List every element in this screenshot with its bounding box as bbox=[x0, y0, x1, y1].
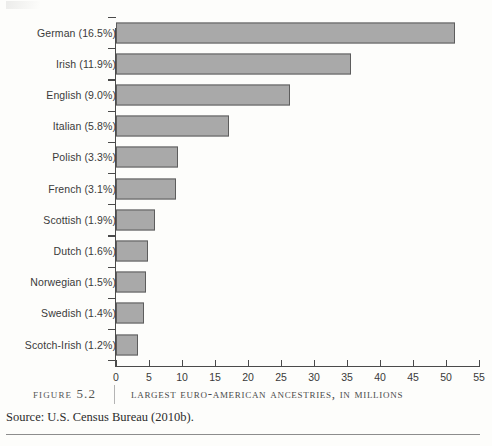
bar-row: Scotch-Irish (1.2%) bbox=[0, 329, 492, 360]
y-tick bbox=[108, 235, 116, 236]
bar bbox=[116, 303, 144, 324]
bar bbox=[116, 209, 155, 230]
bar bbox=[116, 53, 351, 74]
y-tick bbox=[108, 298, 116, 299]
x-tick bbox=[248, 360, 249, 367]
y-tick bbox=[108, 79, 116, 80]
y-tick bbox=[108, 267, 116, 268]
bar bbox=[116, 22, 455, 43]
x-tick bbox=[215, 360, 216, 367]
bar-row: Norwegian (1.5%) bbox=[0, 267, 492, 298]
bar-chart: German (16.5%)Irish (11.9%)English (9.0%… bbox=[0, 14, 492, 366]
figure-title: Largest Euro-American Ancestries, in Mil… bbox=[131, 386, 403, 402]
caption-divider bbox=[114, 385, 115, 404]
x-tick bbox=[380, 360, 381, 367]
figure-caption-block: Figure 5.2 Largest Euro-American Ancestr… bbox=[0, 382, 492, 406]
category-label: English (9.0%) bbox=[46, 89, 116, 101]
category-label: Irish (11.9%) bbox=[56, 58, 116, 70]
y-tick bbox=[108, 173, 116, 174]
bar-row: Dutch (1.6%) bbox=[0, 235, 492, 266]
category-label: German (16.5%) bbox=[37, 27, 116, 39]
bottom-rule bbox=[6, 434, 480, 435]
y-tick bbox=[108, 142, 116, 143]
category-label: French (3.1%) bbox=[48, 183, 116, 195]
y-tick bbox=[108, 329, 116, 330]
category-label: Scotch-Irish (1.2%) bbox=[25, 339, 116, 351]
x-axis-line bbox=[115, 366, 480, 367]
bar bbox=[116, 84, 290, 105]
bar bbox=[116, 240, 148, 261]
x-tick bbox=[479, 360, 480, 367]
category-label: Italian (5.8%) bbox=[53, 120, 116, 132]
bar-row: Swedish (1.4%) bbox=[0, 298, 492, 329]
x-tick bbox=[116, 360, 117, 367]
category-label: Scottish (1.9%) bbox=[43, 214, 116, 226]
category-label: Norwegian (1.5%) bbox=[30, 276, 116, 288]
bar-row: Italian (5.8%) bbox=[0, 111, 492, 142]
category-label: Swedish (1.4%) bbox=[41, 307, 116, 319]
bar-row: Irish (11.9%) bbox=[0, 48, 492, 79]
bar bbox=[116, 178, 176, 199]
bar-row: English (9.0%) bbox=[0, 79, 492, 110]
bar-row: German (16.5%) bbox=[0, 17, 492, 48]
x-tick bbox=[413, 360, 414, 367]
bar-row: Scottish (1.9%) bbox=[0, 204, 492, 235]
bar-row: French (3.1%) bbox=[0, 173, 492, 204]
bar-row: Polish (3.3%) bbox=[0, 142, 492, 173]
x-tick bbox=[149, 360, 150, 367]
x-tick bbox=[314, 360, 315, 367]
y-tick bbox=[108, 111, 116, 112]
y-tick bbox=[108, 48, 116, 49]
bar bbox=[116, 272, 146, 293]
x-tick bbox=[281, 360, 282, 367]
y-tick bbox=[108, 360, 116, 361]
x-tick bbox=[347, 360, 348, 367]
caption-line: Figure 5.2 Largest Euro-American Ancestr… bbox=[0, 382, 492, 406]
x-tick bbox=[446, 360, 447, 367]
bar bbox=[116, 147, 178, 168]
figure-number: Figure 5.2 bbox=[33, 386, 96, 402]
source-note: Source: U.S. Census Bureau (2010b). bbox=[6, 410, 194, 425]
figure-container: German (16.5%)Irish (11.9%)English (9.0%… bbox=[0, 0, 492, 446]
category-label: Polish (3.3%) bbox=[52, 151, 116, 163]
bar bbox=[116, 116, 229, 137]
x-tick bbox=[182, 360, 183, 367]
category-label: Dutch (1.6%) bbox=[54, 245, 116, 257]
y-tick bbox=[108, 204, 116, 205]
bar bbox=[116, 334, 138, 355]
y-tick bbox=[108, 17, 116, 18]
